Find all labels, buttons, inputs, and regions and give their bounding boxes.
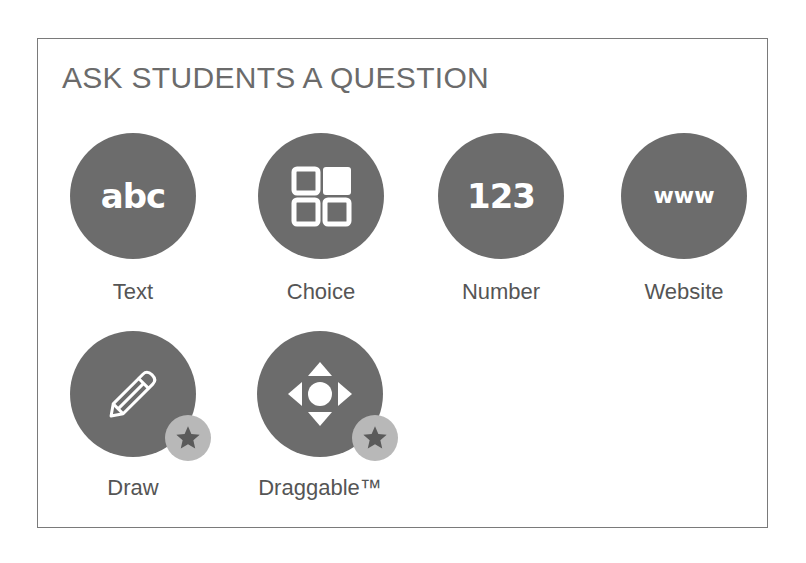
star-icon [174, 424, 202, 452]
question-type-label: Website [594, 279, 774, 305]
pencil-icon [98, 359, 168, 429]
premium-badge [352, 415, 398, 461]
number-type-circle[interactable]: 123 [438, 133, 564, 259]
question-type-choice-button[interactable]: Choice [231, 133, 411, 323]
question-type-draw-button[interactable]: Draw [43, 331, 223, 521]
question-type-label: Number [411, 279, 591, 305]
website-type-circle[interactable]: www [621, 133, 747, 259]
question-type-label: Draggable™ [230, 475, 410, 501]
move-arrows-icon [284, 358, 356, 430]
question-type-label: Text [43, 279, 223, 305]
abc-icon: abc [101, 179, 165, 213]
question-type-label: Choice [231, 279, 411, 305]
question-type-text-button[interactable]: abc Text [43, 133, 223, 323]
choice-type-circle[interactable] [258, 133, 384, 259]
panel-title: ASK STUDENTS A QUESTION [62, 61, 489, 95]
choice-grid-icon [290, 165, 352, 227]
number-icon: 123 [467, 179, 535, 213]
question-type-label: Draw [43, 475, 223, 501]
question-type-website-button[interactable]: www Website [594, 133, 774, 323]
www-icon: www [654, 185, 715, 207]
star-icon [361, 424, 389, 452]
question-type-number-button[interactable]: 123 Number [411, 133, 591, 323]
premium-badge [165, 415, 211, 461]
text-type-circle[interactable]: abc [70, 133, 196, 259]
question-type-draggable-button[interactable]: Draggable™ [230, 331, 410, 521]
